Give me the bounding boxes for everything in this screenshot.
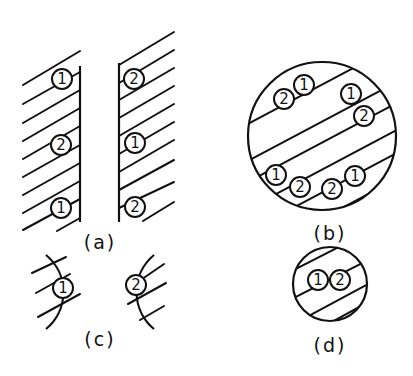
svg-text:2: 2: [359, 107, 369, 125]
svg-text:1: 1: [57, 70, 67, 88]
atom-b-5: 1: [266, 165, 286, 185]
atom-a-right-3: 2: [125, 197, 145, 217]
svg-text:2: 2: [56, 136, 66, 154]
svg-text:2: 2: [129, 70, 139, 88]
svg-text:2: 2: [327, 180, 337, 198]
panel-b-label: (b): [314, 222, 347, 244]
atom-b-1: 2: [274, 89, 294, 109]
panel-c-label: (c): [84, 328, 115, 350]
svg-text:1: 1: [58, 279, 68, 297]
atom-b-8: 1: [345, 166, 365, 186]
atom-c-left: 1: [53, 278, 73, 298]
atom-d-2: 2: [330, 270, 350, 290]
svg-text:2: 2: [130, 198, 140, 216]
atom-a-left-2: 2: [51, 135, 71, 155]
atom-a-left-1: 1: [52, 69, 72, 89]
atom-a-right-2: 1: [125, 133, 145, 153]
atom-b-7: 2: [322, 179, 342, 199]
svg-text:1: 1: [313, 271, 323, 289]
svg-text:1: 1: [271, 166, 281, 184]
atom-b-4: 2: [354, 106, 374, 126]
svg-text:2: 2: [335, 271, 345, 289]
atom-b-6: 2: [290, 177, 310, 197]
atom-c-right: 2: [126, 275, 146, 295]
atom-d-1: 1: [308, 270, 328, 290]
atom-a-left-3: 1: [51, 198, 71, 218]
atom-b-3: 1: [341, 84, 361, 104]
svg-text:1: 1: [56, 199, 66, 217]
panel-a-right-surface: [119, 32, 174, 222]
panel-d-label: (d): [314, 334, 347, 356]
atom-a-right-1: 2: [124, 69, 144, 89]
atom-b-2: 1: [294, 75, 314, 95]
svg-text:2: 2: [131, 276, 141, 294]
svg-text:2: 2: [295, 178, 305, 196]
svg-text:1: 1: [299, 76, 309, 94]
svg-text:1: 1: [350, 167, 360, 185]
figure-diagram: 1 2 1 2 1 2 (a): [0, 0, 413, 376]
panel-a-label: (a): [84, 231, 116, 253]
svg-text:2: 2: [279, 90, 289, 108]
svg-text:1: 1: [346, 85, 356, 103]
svg-text:1: 1: [130, 134, 140, 152]
